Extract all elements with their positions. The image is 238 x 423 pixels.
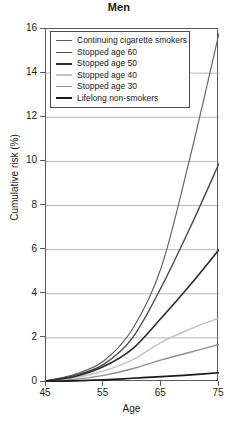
y-axis-tick: 6 [31, 243, 45, 255]
legend-item: Lifelong non-smokers [51, 93, 189, 105]
x-axis-tick: 65 [140, 381, 180, 398]
y-axis-tick: 14 [26, 66, 45, 78]
legend-item-label: Stopped age 50 [77, 58, 137, 70]
legend-item: Stopped age 30 [51, 81, 189, 93]
chart-legend: Continuing cigarette smokersStopped age … [50, 31, 190, 108]
series-line [46, 250, 219, 381]
y-axis: 0246810121416 [0, 0, 45, 423]
legend-item: Continuing cigarette smokers [51, 35, 189, 47]
y-axis-tick-label: 10 [26, 154, 40, 166]
legend-line-swatch [56, 63, 72, 65]
y-axis-tick: 16 [26, 22, 45, 34]
legend-item-label: Lifelong non-smokers [77, 93, 158, 105]
x-axis-tick-label: 45 [25, 387, 65, 398]
x-axis-tick-label: 65 [140, 387, 180, 398]
legend-item-label: Stopped age 40 [77, 70, 137, 82]
legend-item: Stopped age 40 [51, 70, 189, 82]
legend-item: Stopped age 50 [51, 58, 189, 70]
x-axis-tick-label: 75 [198, 387, 238, 398]
x-axis-tick: 55 [83, 381, 123, 398]
x-axis-tick: 45 [25, 381, 65, 398]
chart-figure: Men 0246810121416 Cumulative risk (%) 45… [0, 0, 238, 423]
legend-item-label: Stopped age 60 [77, 47, 137, 59]
y-axis-tick-label: 4 [31, 287, 40, 299]
x-axis-tick-mark [45, 381, 46, 386]
legend-line-swatch [56, 86, 72, 87]
y-axis-tick-label: 16 [26, 22, 40, 34]
y-axis-title: Cumulative risk (%) [9, 88, 20, 268]
legend-item-label: Continuing cigarette smokers [77, 35, 187, 47]
legend-line-swatch [56, 97, 72, 99]
legend-line-swatch [56, 74, 72, 76]
y-axis-tick: 2 [31, 331, 45, 343]
x-axis-tick-label: 55 [83, 387, 123, 398]
y-axis-tick: 12 [26, 110, 45, 122]
y-axis-tick-label: 14 [26, 66, 40, 78]
y-axis-tick-label: 8 [31, 199, 40, 211]
y-axis-tick-label: 12 [26, 110, 40, 122]
legend-item: Stopped age 60 [51, 47, 189, 59]
x-axis-tick: 75 [198, 381, 238, 398]
x-axis-tick-mark [102, 381, 103, 386]
legend-line-swatch [56, 52, 72, 53]
y-axis-tick-label: 2 [31, 331, 40, 343]
y-axis-tick: 10 [26, 154, 45, 166]
y-axis-tick: 4 [31, 287, 45, 299]
y-axis-tick: 8 [31, 199, 45, 211]
x-axis-tick-mark [160, 381, 161, 386]
legend-item-label: Stopped age 30 [77, 81, 137, 93]
legend-line-swatch [56, 40, 72, 41]
y-axis-tick-label: 6 [31, 243, 40, 255]
x-axis-tick-mark [218, 381, 219, 386]
x-axis-title: Age [45, 403, 218, 414]
